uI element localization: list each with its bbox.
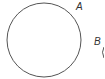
label-b: B	[94, 36, 101, 47]
circle-shape	[7, 3, 81, 77]
label-a: A	[75, 1, 83, 12]
diagram-canvas: A B	[0, 0, 104, 79]
partial-circle-b	[103, 47, 105, 58]
